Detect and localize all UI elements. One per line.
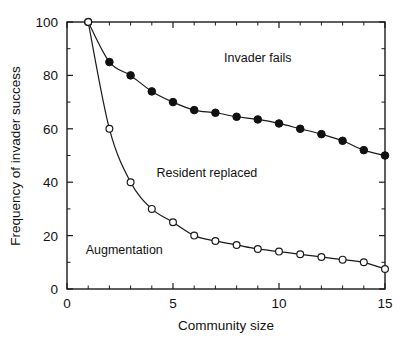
y-tick-label: 60 [43,122,58,137]
x-tick-label: 5 [169,296,177,311]
x-axis-title: Community size [178,318,274,333]
data-point [382,266,389,273]
data-point [148,206,155,213]
data-point [275,120,283,128]
data-point [318,130,326,138]
data-point [169,98,177,106]
region-label-2: Augmentation [86,243,163,257]
data-point [360,146,368,154]
data-point [148,88,156,96]
y-tick-label: 0 [50,282,58,297]
data-point [254,116,262,124]
data-point [127,72,135,80]
data-point [318,254,325,261]
x-tick-label: 10 [271,296,286,311]
data-point [233,113,241,121]
data-point [106,125,113,132]
series-line-0 [88,22,385,156]
data-point [191,232,198,239]
data-point [127,179,134,186]
data-point [254,246,261,253]
data-point [212,109,220,117]
data-point [85,19,92,26]
data-point [339,256,346,263]
y-tick-label: 40 [43,175,58,190]
data-point [360,259,367,266]
data-point [106,58,114,66]
chart-figure: 051015 020406080100 Invader failsResiden… [0,0,412,343]
y-tick-label: 20 [43,229,58,244]
x-tick-label: 15 [377,296,392,311]
region-annotations: Invader failsResident replacedAugmentati… [86,51,292,257]
data-point [381,152,389,160]
region-label-1: Resident replaced [157,166,258,180]
data-point [212,238,219,245]
y-tick-label: 100 [35,15,58,30]
data-point [339,137,347,145]
data-point [296,125,304,133]
y-axis-minor-ticks [67,49,385,263]
y-axis-title: Frequency of invader success [8,66,23,246]
x-axis-tick-labels: 051015 [63,296,392,311]
data-point [297,251,304,258]
chart-canvas: 051015 020406080100 Invader failsResiden… [0,0,412,343]
region-label-0: Invader fails [224,51,291,65]
data-point [170,219,177,226]
y-tick-label: 80 [43,68,58,83]
data-point [233,242,240,249]
series-0 [84,18,388,159]
y-axis-tick-labels: 020406080100 [35,15,58,297]
x-tick-label: 0 [63,296,71,311]
data-point [190,106,198,114]
data-point [276,248,283,255]
